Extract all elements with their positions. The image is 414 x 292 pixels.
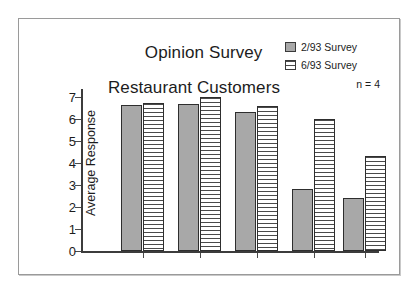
y-axis-tick-label: 2 (69, 201, 76, 214)
legend-label-series-1: 2/93 Survey (301, 41, 357, 53)
plot-area: Average Response 01234567 FoodSpeedFrien… (81, 75, 381, 253)
bar-friendly-series-2[interactable] (257, 106, 278, 251)
bar-servings-series-2[interactable] (314, 119, 335, 251)
y-axis-tick-label: 6 (69, 113, 76, 126)
y-axis-tick-label: 4 (69, 157, 76, 170)
chart-frame: Opinion Survey Restaurant Customers 2/93… (18, 18, 400, 275)
bar-speed-series-2[interactable] (200, 97, 221, 251)
bar-group (178, 77, 222, 251)
legend-swatch-series-1 (285, 42, 296, 52)
bar-servings-series-1[interactable] (292, 189, 313, 251)
y-axis-tick-label: 1 (69, 223, 76, 236)
legend-item-series-1: 2/93 Survey (285, 39, 393, 54)
bar-group (121, 77, 165, 251)
chart-title-line-1: Opinion Survey (145, 43, 263, 62)
bar-price-series-1[interactable] (343, 198, 364, 251)
bar-food-series-2[interactable] (143, 103, 164, 252)
bar-price-series-2[interactable] (365, 156, 386, 251)
bar-group (292, 77, 336, 251)
x-axis-line (81, 251, 379, 253)
bar-group (235, 77, 279, 251)
bar-food-series-1[interactable] (121, 105, 142, 251)
x-axis-tick-mark (257, 253, 258, 258)
y-axis-tick-label: 5 (69, 135, 76, 148)
y-axis-line (81, 89, 83, 251)
y-axis-tick-label: 7 (69, 91, 76, 104)
x-axis-tick-mark (200, 253, 201, 258)
x-axis-tick-mark (143, 253, 144, 258)
y-axis-title: Average Response (84, 110, 98, 216)
x-axis-tick-mark (314, 253, 315, 258)
legend-item-series-2: 6/93 Survey (285, 57, 393, 72)
bar-speed-series-1[interactable] (178, 104, 199, 251)
legend-label-series-2: 6/93 Survey (301, 59, 357, 71)
legend-swatch-series-2 (285, 60, 296, 70)
y-axis-tick-label: 0 (69, 245, 76, 258)
x-axis-tick-mark (365, 253, 366, 258)
bar-friendly-series-1[interactable] (235, 112, 256, 251)
bar-group (343, 77, 387, 251)
y-axis-tick-label: 3 (69, 179, 76, 192)
